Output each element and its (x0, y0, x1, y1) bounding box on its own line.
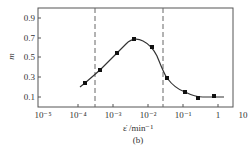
x-tick-label: 10⁻² (140, 111, 157, 120)
x-axis-label: ε̇ /min⁻¹ (123, 124, 153, 133)
x-tick-label: 10⁻⁴ (69, 111, 86, 120)
x-tick-label: 10⁻³ (105, 111, 122, 120)
y-tick-label: 0.3 (24, 73, 35, 82)
x-tick-label: 10 (239, 111, 248, 120)
y-tick-label: 0.5 (24, 53, 35, 62)
data-markers (83, 37, 216, 100)
subfigure-label: (b) (133, 136, 144, 145)
y-tick-label: 0.7 (24, 34, 35, 43)
x-tick-label: 1 (216, 111, 221, 120)
plot-frame (38, 8, 233, 107)
y-tick-label: 0.9 (24, 14, 35, 23)
y-axis-label: m (7, 53, 16, 60)
x-tick-label: 10⁻⁵ (34, 111, 51, 120)
x-tick-label: 10⁻¹ (175, 111, 192, 120)
y-tick-label: 0.1 (24, 93, 35, 102)
